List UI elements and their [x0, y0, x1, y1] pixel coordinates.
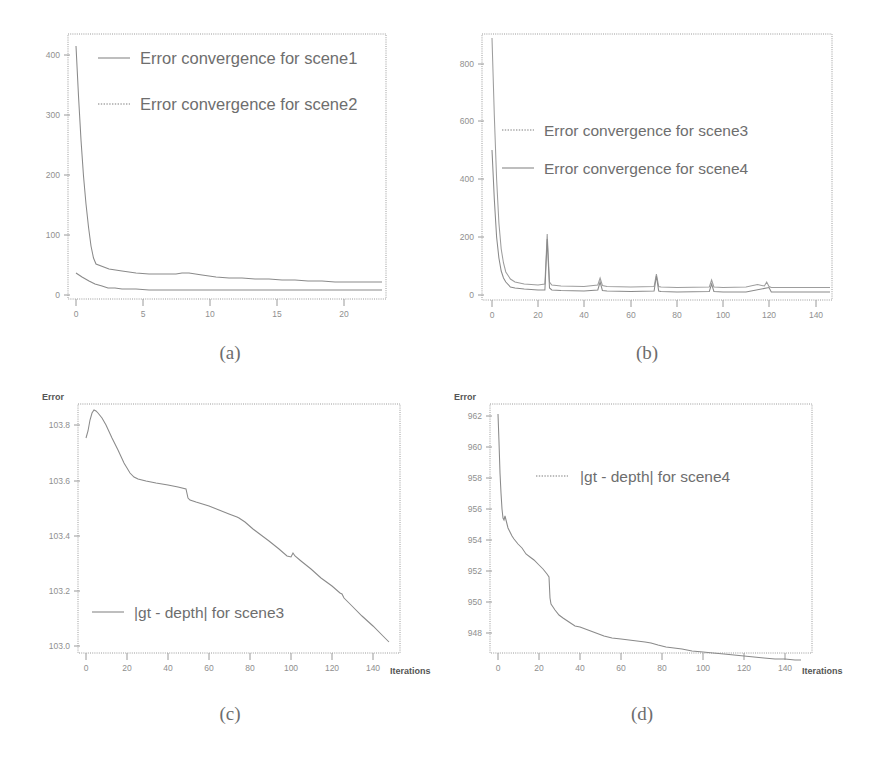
x-tick-label: 40 — [163, 663, 173, 673]
subfigure-caption-d: (d) — [432, 703, 852, 725]
y-tick-label: 200 — [460, 232, 474, 242]
y-tick-label: 200 — [46, 170, 60, 180]
y-axis-a: 400 300 200 100 0 — [46, 50, 70, 300]
y-tick-label: 800 — [460, 59, 474, 69]
legend-label-scene4: Error convergence for scene4 — [544, 160, 749, 177]
y-tick-label: 962 — [468, 411, 482, 421]
subfigure-caption-a: (a) — [30, 342, 430, 364]
legend-label-gt-depth-scene3: |gt - depth| for scene3 — [134, 604, 284, 621]
plot-frame-d — [490, 404, 812, 653]
y-tick-label: 103.6 — [49, 476, 71, 486]
x-tick-label: 5 — [141, 309, 146, 319]
y-tick-label: 103.8 — [49, 420, 71, 430]
y-tick-label: 0 — [469, 290, 474, 300]
legend-c: |gt - depth| for scene3 — [92, 604, 284, 621]
x-tick-label: 80 — [657, 663, 667, 673]
panel-d: Error 962 960 958 956 954 952 950 948 — [432, 388, 852, 738]
x-axis-b: 0 20 40 60 80 100 120 140 — [490, 300, 824, 320]
panel-c: Error 103.8 103.6 103.4 103.2 103.0 0 20 — [20, 388, 440, 738]
y-tick-label: 954 — [468, 535, 482, 545]
series-line-gt-depth-scene4 — [498, 414, 801, 660]
y-tick-label: 600 — [460, 116, 474, 126]
legend-label-gt-depth-scene4: |gt - depth| for scene4 — [580, 468, 731, 485]
legend-d: |gt - depth| for scene4 — [536, 468, 731, 485]
x-tick-label: 120 — [325, 663, 339, 673]
y-axis-b: 800 600 400 200 0 — [460, 59, 484, 300]
x-tick-label: 15 — [272, 309, 282, 319]
legend-label-scene3: Error convergence for scene3 — [544, 122, 748, 139]
y-tick-label: 0 — [55, 290, 60, 300]
x-axis-a: 0 5 10 15 20 — [74, 299, 349, 319]
legend-b: Error convergence for scene3 Error conve… — [502, 122, 749, 177]
y-tick-label: 103.4 — [49, 531, 71, 541]
y-tick-label: 948 — [468, 628, 482, 638]
panel-b: 800 600 400 200 0 0 20 40 60 — [442, 20, 852, 380]
y-tick-label: 103.0 — [49, 641, 71, 651]
x-tick-label: 40 — [579, 310, 589, 320]
x-tick-label: 120 — [737, 663, 751, 673]
legend-a: Error convergence for scene1 Error conve… — [98, 49, 357, 113]
x-tick-label: 140 — [778, 663, 792, 673]
x-tick-label: 0 — [74, 309, 79, 319]
x-tick-label: 120 — [762, 310, 776, 320]
y-tick-label: 960 — [468, 442, 482, 452]
x-tick-label: 20 — [122, 663, 132, 673]
x-tick-label: 20 — [534, 663, 544, 673]
y-tick-label: 300 — [46, 110, 60, 120]
x-tick-label: 40 — [575, 663, 585, 673]
y-axis-title-d: Error — [454, 392, 477, 402]
x-axis-c: 0 20 40 60 80 100 120 140 Iterations — [84, 653, 431, 676]
x-tick-label: 60 — [626, 310, 636, 320]
chart-a: 400 300 200 100 0 0 5 10 15 — [30, 20, 430, 340]
x-tick-label: 100 — [716, 310, 730, 320]
x-axis-d: 0 20 40 60 80 100 120 140 Iterations — [496, 653, 843, 676]
plot-frame-a — [68, 34, 386, 299]
x-tick-label: 20 — [339, 309, 349, 319]
x-tick-label: 100 — [696, 663, 710, 673]
x-tick-label: 100 — [284, 663, 298, 673]
x-tick-label: 140 — [366, 663, 380, 673]
y-tick-label: 956 — [468, 504, 482, 514]
subfigure-caption-b: (b) — [442, 342, 852, 364]
x-tick-label: 0 — [496, 663, 501, 673]
x-tick-label: 60 — [204, 663, 214, 673]
y-tick-label: 950 — [468, 597, 482, 607]
x-axis-title-c: Iterations — [390, 666, 431, 676]
x-tick-label: 80 — [672, 310, 682, 320]
y-tick-label: 100 — [46, 230, 60, 240]
x-tick-label: 20 — [533, 310, 543, 320]
chart-d: Error 962 960 958 956 954 952 950 948 — [432, 388, 852, 698]
chart-c: Error 103.8 103.6 103.4 103.2 103.0 0 20 — [20, 388, 440, 698]
x-tick-label: 60 — [616, 663, 626, 673]
y-tick-label: 952 — [468, 566, 482, 576]
y-tick-label: 400 — [460, 174, 474, 184]
x-tick-label: 140 — [809, 310, 823, 320]
x-tick-label: 10 — [205, 309, 215, 319]
legend-label-scene1: Error convergence for scene1 — [140, 49, 357, 67]
y-axis-d: 962 960 958 956 954 952 950 948 — [468, 411, 492, 638]
y-axis-title-c: Error — [42, 392, 65, 402]
x-tick-label: 0 — [490, 310, 495, 320]
y-axis-c: 103.8 103.6 103.4 103.2 103.0 — [49, 420, 80, 651]
legend-label-scene2: Error convergence for scene2 — [140, 95, 357, 113]
panel-a: 400 300 200 100 0 0 5 10 15 — [30, 20, 430, 380]
subfigure-caption-c: (c) — [20, 703, 440, 725]
figure-container: 400 300 200 100 0 0 5 10 15 — [0, 0, 869, 761]
y-tick-label: 958 — [468, 473, 482, 483]
x-tick-label: 0 — [84, 663, 89, 673]
y-tick-label: 400 — [46, 50, 60, 60]
series-line-scene1 — [76, 46, 382, 282]
y-tick-label: 103.2 — [49, 586, 71, 596]
x-axis-title-d: Iterations — [802, 666, 843, 676]
chart-b: 800 600 400 200 0 0 20 40 60 — [442, 20, 852, 340]
x-tick-label: 80 — [245, 663, 255, 673]
